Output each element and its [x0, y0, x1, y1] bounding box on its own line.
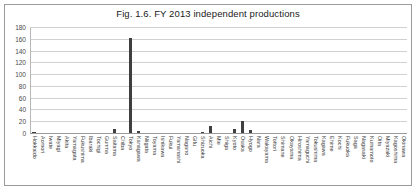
- x-tick-slot: Gifu: [190, 136, 198, 184]
- bar-slot: [70, 28, 78, 134]
- bar-slot: [54, 28, 62, 134]
- bar-slot: [367, 28, 375, 134]
- x-tick-slot: Ishikawa: [158, 136, 166, 184]
- x-axis-tick-label: Mie: [216, 136, 221, 145]
- bar-slot: [335, 28, 343, 134]
- bar-slot: [190, 28, 198, 134]
- bar-slot: [278, 28, 286, 134]
- bar-slot: [254, 28, 262, 134]
- bar-slot: [222, 28, 230, 134]
- bar-slot: [303, 28, 311, 134]
- x-axis-line: [30, 133, 407, 134]
- x-tick-slot: Fukuoka: [343, 136, 351, 184]
- bar-slot: [166, 28, 174, 134]
- bar-slot: [238, 28, 246, 134]
- x-axis-tick-label: Kanagawa: [136, 136, 141, 162]
- x-axis-tick-label: Kagawa: [320, 136, 325, 156]
- x-tick-slot: Kagoshima: [391, 136, 399, 184]
- x-axis-tick-label: Ishikawa: [160, 136, 165, 157]
- bar-slot: [62, 28, 70, 134]
- x-axis-tick-label: Fukuoka: [344, 136, 349, 157]
- bar-slot: [262, 28, 270, 134]
- bar: [129, 38, 132, 134]
- chart-title: Fig. 1.6. FY 2013 independent production…: [0, 8, 416, 19]
- x-tick-slot: Shiga: [222, 136, 230, 184]
- y-axis-tick-label: 140: [15, 48, 26, 55]
- x-axis-tick-label: Akita: [63, 136, 68, 148]
- x-axis-tick-label: Nagano: [184, 136, 189, 155]
- x-axis-tick-label: Tottori: [272, 136, 277, 151]
- x-tick-slot: Yamagata: [70, 136, 78, 184]
- x-tick-slot: Kyoto: [230, 136, 238, 184]
- x-axis-tick-label: Nagasaki: [360, 136, 365, 159]
- x-tick-slot: Iwate: [46, 136, 54, 184]
- bar-slot: [359, 28, 367, 134]
- x-tick-slot: Tottori: [270, 136, 278, 184]
- bar-slot: [118, 28, 126, 134]
- x-tick-slot: Tokushima: [311, 136, 319, 184]
- x-axis-tick-label: Toyama: [152, 136, 157, 155]
- bar-slot: [343, 28, 351, 134]
- y-axis-tick-label: 120: [15, 60, 26, 67]
- x-tick-slot: Kanagawa: [134, 136, 142, 184]
- bar-slot: [158, 28, 166, 134]
- bar-slot: [142, 28, 150, 134]
- x-axis-tick-label: Tochigi: [95, 136, 100, 153]
- x-tick-slot: Niigata: [142, 136, 150, 184]
- x-axis-tick-labels: HokkaidoAomoriIwateMiyagiAkitaYamagataFu…: [30, 136, 407, 184]
- bar-slot: [30, 28, 38, 134]
- x-tick-slot: Saitama: [110, 136, 118, 184]
- bar-slot: [86, 28, 94, 134]
- x-axis-tick-label: Nara: [256, 136, 261, 148]
- x-tick-slot: Tochigi: [94, 136, 102, 184]
- x-axis-tick-label: Yamagata: [71, 136, 76, 161]
- x-axis-tick-label: Aomori: [39, 136, 44, 153]
- x-tick-slot: Miyazaki: [383, 136, 391, 184]
- bar-slot: [94, 28, 102, 134]
- x-axis-tick-label: Osaka: [240, 136, 245, 152]
- x-tick-slot: Oita: [375, 136, 383, 184]
- x-tick-slot: Aichi: [206, 136, 214, 184]
- x-axis-tick-label: Ibaraki: [87, 136, 92, 153]
- x-tick-slot: Fukushima: [78, 136, 86, 184]
- x-axis-tick-label: Fukushima: [79, 136, 84, 163]
- x-tick-slot: Nagano: [182, 136, 190, 184]
- x-axis-tick-label: Hokkaido: [31, 136, 36, 159]
- y-axis-tick-label: 180: [15, 25, 26, 32]
- bar-slot: [246, 28, 254, 134]
- y-axis-tick-label: 80: [19, 84, 26, 91]
- x-axis-tick-label: Oita: [376, 136, 381, 146]
- x-tick-slot: Aomori: [38, 136, 46, 184]
- bar-slot: [311, 28, 319, 134]
- bar-slot: [110, 28, 118, 134]
- plot-area: [30, 28, 407, 134]
- x-tick-slot: Hokkaido: [30, 136, 38, 184]
- bar-slot: [270, 28, 278, 134]
- x-tick-slot: Wakayama: [262, 136, 270, 184]
- y-axis-tick-label: 0: [22, 131, 26, 138]
- x-axis-tick-label: Miyazaki: [384, 136, 389, 157]
- x-tick-slot: Toyama: [150, 136, 158, 184]
- x-axis-tick-label: Saga: [352, 136, 357, 149]
- bar-slot: [391, 28, 399, 134]
- bar-slot: [230, 28, 238, 134]
- x-tick-slot: Shizuoka: [198, 136, 206, 184]
- x-tick-slot: Nagasaki: [359, 136, 367, 184]
- bar-slot: [295, 28, 303, 134]
- x-tick-slot: Ehime: [327, 136, 335, 184]
- x-axis-tick-label: Kagoshima: [392, 136, 397, 163]
- x-axis-tick-label: Yamanashi: [176, 136, 181, 163]
- x-axis-tick-label: Tokyo: [127, 136, 132, 150]
- bar-slot: [206, 28, 214, 134]
- bar-slot: [134, 28, 142, 134]
- x-tick-slot: Ibaraki: [86, 136, 94, 184]
- bar-slot: [182, 28, 190, 134]
- bar-slot: [150, 28, 158, 134]
- y-axis-tick-label: 40: [19, 107, 26, 114]
- bar-slot: [214, 28, 222, 134]
- x-tick-slot: Okayama: [287, 136, 295, 184]
- x-tick-slot: Akita: [62, 136, 70, 184]
- x-tick-slot: Shimane: [278, 136, 286, 184]
- x-axis-tick-label: Hiroshima: [296, 136, 301, 161]
- y-axis-tick-label: 100: [15, 72, 26, 79]
